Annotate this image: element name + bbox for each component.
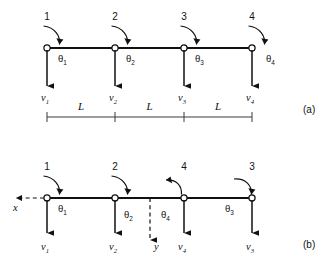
moment-arc-icon [44,26,60,45]
diagram-canvas: 1 θ1 v1 2 θ2 v2 3 θ3 [0,0,335,267]
shear-label: v2 [109,92,118,105]
node-number-label: 1 [44,11,50,22]
node-group-a-1: 1 θ1 v1 [41,11,67,105]
moment-arrowhead-icon [56,188,63,194]
shear-label: v1 [41,92,49,105]
moment-arrowhead-icon [261,38,268,44]
shear-label: v2 [109,241,118,254]
dimension-line-group: L L L [47,100,252,122]
moment-arrowhead-icon [124,38,131,44]
moment-arc-icon [234,179,252,195]
node-group-a-3: 3 θ3 v3 [178,11,204,105]
node-group-b-3: 3 θ3 v3 [225,161,255,254]
beam-diagram-figure: 1 θ1 v1 2 θ2 v2 3 θ3 [0,0,335,267]
node-group-b-2: 2 θ2 v2 [109,161,133,254]
node-number-label: 3 [181,11,187,22]
node-number-label: 2 [112,161,118,172]
moment-arc-icon [249,26,265,45]
y-axis-label: y [153,241,159,252]
node-group-b-4: 4 θ4 v4 [161,161,187,254]
y-axis-group: y [150,198,159,252]
node-group-b-1: 1 θ1 v1 [41,161,67,254]
theta-label: θ2 [126,53,135,66]
theta-label: θ4 [161,209,170,222]
x-axis-group: x [12,198,44,213]
theta-label: θ2 [124,209,133,222]
panel-a: 1 θ1 v1 2 θ2 v2 3 θ3 [41,11,315,122]
panel-b: x y 1 θ1 v1 2 [12,161,315,254]
dimension-label: L [77,100,84,112]
theta-label: θ1 [58,53,67,66]
theta-label: θ3 [225,203,234,216]
moment-arc-icon [112,26,128,45]
shear-label: v4 [246,92,255,105]
moment-arrowhead-icon [193,38,200,44]
moment-arrowhead-icon [248,188,255,194]
moment-arc-icon [112,176,128,195]
node-number-label: 2 [112,11,118,22]
theta-label: θ1 [58,203,67,216]
moment-arc-icon [44,176,60,195]
dimension-label: L [145,100,152,112]
node-number-label: 4 [181,161,187,172]
node-number-label: 4 [249,11,255,22]
shear-label: v1 [41,241,49,254]
panel-label-b: (b) [303,239,315,250]
moment-arc-icon [166,180,182,195]
moment-arc-icon [181,26,197,45]
dimension-label: L [214,100,221,112]
node-number-label: 1 [44,161,50,172]
moment-arrowhead-icon [166,177,172,184]
theta-label: θ4 [266,53,275,66]
x-axis-label: x [12,202,18,213]
shear-label: v3 [178,92,187,105]
node-group-a-2: 2 θ2 v2 [109,11,135,105]
node-number-label: 3 [249,161,255,172]
node-group-a-4: 4 θ4 v4 [246,11,275,105]
theta-label: θ3 [195,53,204,66]
panel-label-a: (a) [303,104,315,115]
shear-label: v4 [178,241,187,254]
shear-label: v3 [246,241,255,254]
moment-arrowhead-icon [56,38,63,44]
moment-arrowhead-icon [124,188,131,194]
